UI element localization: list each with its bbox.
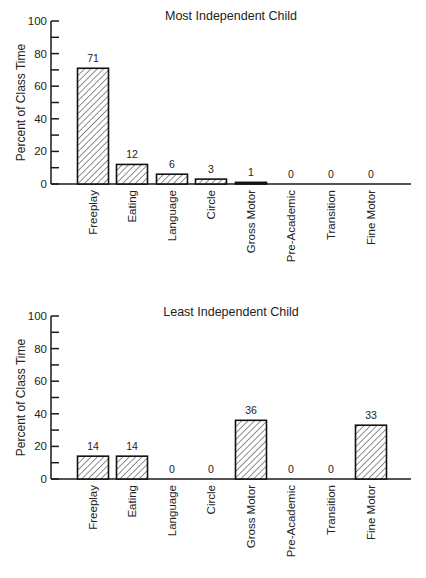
data-label: 0 <box>169 463 175 475</box>
data-label: 0 <box>288 463 294 475</box>
x-tick-label: Eating <box>126 485 138 518</box>
data-label: 0 <box>208 463 214 475</box>
bar-circle <box>196 179 227 184</box>
x-tick-label: Eating <box>126 190 138 223</box>
data-label: 6 <box>169 158 175 170</box>
x-tick-label: Language <box>166 485 178 536</box>
bar-gross-motor <box>236 182 267 184</box>
y-tick-label: 100 <box>28 15 47 27</box>
x-tick-label: Gross Motor <box>245 485 257 548</box>
chart-title: Least Independent Child <box>163 305 299 319</box>
y-tick-label: 100 <box>28 310 47 322</box>
y-tick-label: 60 <box>34 80 47 92</box>
data-label: 14 <box>126 440 138 452</box>
figure: Most Independent ChildPercent of Class T… <box>0 0 426 578</box>
y-tick-label: 40 <box>34 113 47 125</box>
y-tick-label: 0 <box>41 473 47 485</box>
bar-freeplay <box>78 456 109 479</box>
data-label: 0 <box>288 168 294 180</box>
x-tick-label: Fine Motor <box>365 190 377 245</box>
x-tick-label: Freeplay <box>87 485 99 530</box>
data-label: 33 <box>365 409 377 421</box>
x-tick-label: Gross Motor <box>245 190 257 253</box>
bar-language <box>157 174 188 184</box>
x-tick-label: Freeplay <box>87 190 99 235</box>
x-tick-label: Circle <box>205 485 217 514</box>
data-label: 3 <box>208 163 214 175</box>
x-tick-label: Fine Motor <box>365 485 377 540</box>
data-label: 12 <box>126 148 138 160</box>
y-tick-label: 20 <box>34 440 47 452</box>
chart-least-independent-child: Least Independent ChildPercent of Class … <box>14 305 411 557</box>
y-tick-label: 80 <box>34 48 47 60</box>
data-label: 1 <box>248 166 254 178</box>
x-tick-label: Pre-Academic <box>285 485 297 557</box>
x-tick-label: Language <box>166 190 178 241</box>
data-label: 71 <box>87 52 99 64</box>
y-tick-label: 20 <box>34 145 47 157</box>
bar-gross-motor <box>236 420 267 479</box>
bar-eating <box>117 456 148 479</box>
data-label: 0 <box>328 463 334 475</box>
chart-title: Most Independent Child <box>165 9 297 23</box>
y-axis-label: Percent of Class Time <box>14 43 28 161</box>
data-label: 0 <box>368 168 374 180</box>
bar-fine-motor <box>356 425 387 479</box>
bar-eating <box>117 164 148 184</box>
x-tick-label: Pre-Academic <box>285 190 297 262</box>
x-tick-label: Circle <box>205 190 217 219</box>
data-label: 36 <box>245 404 257 416</box>
figure-caption-cropped: ▁ ▂▁ ▁▂▁ ▂ ▁▂ ▁ ▂▁▂ ▁ ▁▂▁ ▂ ▁▂ ▁▂▁ ▂▁ ▁ … <box>2 574 424 578</box>
data-label: 14 <box>87 440 99 452</box>
y-tick-label: 60 <box>34 375 47 387</box>
y-tick-label: 80 <box>34 343 47 355</box>
y-tick-label: 40 <box>34 408 47 420</box>
x-tick-label: Transition <box>325 190 337 240</box>
y-axis-label: Percent of Class Time <box>14 338 28 456</box>
x-tick-label: Transition <box>325 485 337 535</box>
data-label: 0 <box>328 168 334 180</box>
bar-freeplay <box>78 68 109 184</box>
y-tick-label: 0 <box>41 178 47 190</box>
chart-most-independent-child: Most Independent ChildPercent of Class T… <box>14 9 411 262</box>
